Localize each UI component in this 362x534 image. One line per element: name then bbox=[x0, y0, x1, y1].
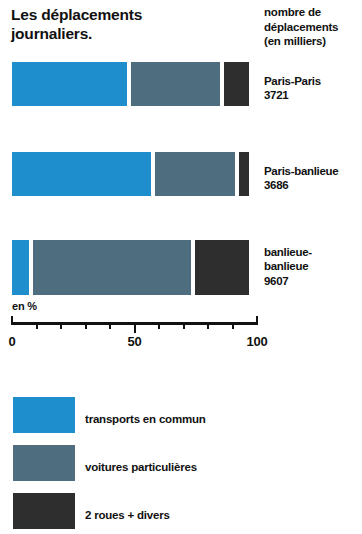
bar-row-name-line-1: Paris-Paris bbox=[264, 74, 362, 88]
axis-tick bbox=[36, 325, 38, 329]
bar-track bbox=[12, 62, 257, 106]
bar-segment-2-roues-divers bbox=[195, 240, 249, 295]
bar-row-value: 3721 bbox=[264, 88, 362, 102]
bar-segment-voitures-particulieres bbox=[155, 152, 235, 196]
axis-tick bbox=[256, 316, 258, 325]
axis-unit-label: en % bbox=[12, 300, 37, 312]
bar-row: Paris-banlieue 3686 bbox=[0, 152, 362, 196]
axis-tick bbox=[232, 325, 234, 329]
axis-tick bbox=[109, 325, 111, 329]
bar-row-label: Paris-banlieue 3686 bbox=[264, 164, 362, 193]
chart-legend: transports en commun voitures particuliè… bbox=[0, 395, 362, 534]
axis-tick bbox=[134, 325, 136, 333]
axis-tick-label: 50 bbox=[128, 334, 142, 349]
bar-segment-2-roues-divers bbox=[224, 62, 249, 106]
axis-tick bbox=[85, 325, 87, 329]
legend-swatch-transports-en-commun bbox=[13, 397, 75, 433]
bar-row-value: 9607 bbox=[264, 274, 362, 288]
legend-swatch-voitures-particulieres bbox=[13, 445, 75, 481]
legend-label: voitures particulières bbox=[85, 461, 197, 473]
axis-tick-label: 100 bbox=[247, 334, 268, 349]
bar-track bbox=[12, 152, 257, 196]
legend-label: transports en commun bbox=[85, 413, 206, 425]
bar-row-name-line-2: banlieue bbox=[264, 259, 362, 273]
bar-row-name-line-1: Paris-banlieue bbox=[264, 164, 362, 178]
bar-row-name-line-1: banlieue- bbox=[264, 245, 362, 259]
axis-tick bbox=[183, 325, 185, 329]
axis-tick bbox=[60, 325, 62, 329]
bar-segment-2-roues-divers bbox=[239, 152, 249, 196]
bar-segment-voitures-particulieres bbox=[33, 240, 191, 295]
legend-item: voitures particulières bbox=[0, 445, 362, 485]
bar-row-label: banlieue- banlieue 9607 bbox=[264, 245, 362, 288]
legend-item: transports en commun bbox=[0, 397, 362, 437]
axis-tick bbox=[207, 325, 209, 329]
axis-tick bbox=[158, 325, 160, 329]
legend-swatch-2-roues-divers bbox=[13, 493, 75, 529]
bar-track bbox=[12, 240, 257, 295]
bar-segment-voitures-particulieres bbox=[131, 62, 220, 106]
legend-item: 2 roues + divers bbox=[0, 493, 362, 533]
axis-tick-label: 0 bbox=[9, 334, 16, 349]
bar-row-value: 3686 bbox=[264, 178, 362, 192]
bar-segment-transports-en-commun bbox=[12, 152, 151, 196]
legend-label: 2 roues + divers bbox=[85, 509, 170, 521]
x-axis: en % 050100 bbox=[0, 300, 362, 358]
bar-row: banlieue- banlieue 9607 bbox=[0, 240, 362, 295]
bar-row-label: Paris-Paris 3721 bbox=[264, 74, 362, 103]
bar-segment-transports-en-commun bbox=[12, 240, 29, 295]
bar-row: Paris-Paris 3721 bbox=[0, 62, 362, 106]
bar-segment-transports-en-commun bbox=[12, 62, 127, 106]
axis-tick bbox=[11, 316, 13, 325]
